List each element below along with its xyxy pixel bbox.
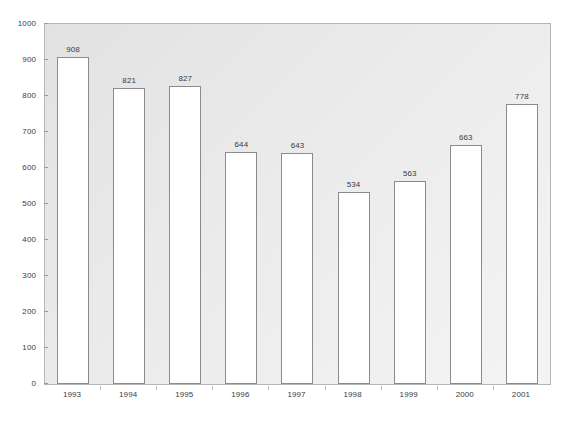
x-tick-mark — [212, 386, 213, 390]
y-tick-label: 500 — [22, 199, 36, 208]
x-tick-label: 2000 — [456, 390, 474, 399]
bar[interactable] — [450, 145, 482, 384]
bar-slot: 644 — [213, 24, 269, 384]
bar-slot: 534 — [326, 24, 382, 384]
x-tick-mark — [268, 386, 269, 390]
x-tick-mark — [493, 386, 494, 390]
bar-value-label: 644 — [235, 140, 249, 149]
x-tick-label: 1996 — [231, 390, 249, 399]
bar-value-label: 827 — [178, 74, 192, 83]
x-tick-mark — [381, 386, 382, 390]
bars-layer: 908821827644643534563663778 — [45, 24, 550, 384]
x-tick-label: 2001 — [512, 390, 530, 399]
bar[interactable] — [225, 152, 257, 384]
y-tick-mark — [44, 203, 48, 204]
bar[interactable] — [113, 88, 145, 384]
bar-value-label: 663 — [459, 133, 473, 142]
x-tick-label: 1997 — [287, 390, 305, 399]
bar-value-label: 534 — [347, 180, 361, 189]
bar-value-label: 778 — [515, 92, 529, 101]
x-tick-label: 1998 — [344, 390, 362, 399]
bar[interactable] — [338, 192, 370, 384]
bar-slot: 821 — [101, 24, 157, 384]
y-tick-label: 1000 — [18, 19, 36, 28]
bar-slot: 827 — [157, 24, 213, 384]
bar[interactable] — [281, 153, 313, 384]
y-tick-mark — [44, 95, 48, 96]
y-tick-label: 400 — [22, 235, 36, 244]
x-tick-label: 1994 — [119, 390, 137, 399]
bar[interactable] — [394, 181, 426, 384]
bar-chart-figure: 01002003004005006007008009001000 9088218… — [0, 0, 579, 427]
x-tick-mark — [325, 386, 326, 390]
bar[interactable] — [169, 86, 201, 384]
y-tick-mark — [44, 239, 48, 240]
bar[interactable] — [506, 104, 538, 384]
bar-slot: 908 — [45, 24, 101, 384]
bar-slot: 643 — [269, 24, 325, 384]
y-tick-label: 0 — [31, 379, 36, 388]
y-tick-mark — [44, 383, 48, 384]
x-tick-mark — [437, 386, 438, 390]
x-axis: 199319941995199619971998199920002001 — [44, 390, 551, 404]
x-tick-mark — [100, 386, 101, 390]
bar-value-label: 563 — [403, 169, 417, 178]
bar-value-label: 821 — [122, 76, 136, 85]
y-tick-label: 100 — [22, 343, 36, 352]
bar-slot: 778 — [494, 24, 550, 384]
plot-area: 908821827644643534563663778 — [44, 23, 551, 385]
y-tick-label: 800 — [22, 91, 36, 100]
bar-value-label: 908 — [66, 45, 80, 54]
y-tick-label: 200 — [22, 307, 36, 316]
y-tick-mark — [44, 131, 48, 132]
bar-slot: 663 — [438, 24, 494, 384]
y-tick-label: 900 — [22, 55, 36, 64]
x-tick-label: 1999 — [400, 390, 418, 399]
y-tick-mark — [44, 275, 48, 276]
y-axis: 01002003004005006007008009001000 — [0, 23, 36, 385]
bar-slot: 563 — [382, 24, 438, 384]
y-tick-label: 600 — [22, 163, 36, 172]
y-tick-label: 700 — [22, 127, 36, 136]
x-tick-mark — [156, 386, 157, 390]
x-tick-label: 1995 — [175, 390, 193, 399]
y-tick-label: 300 — [22, 271, 36, 280]
y-tick-mark — [44, 167, 48, 168]
bar[interactable] — [57, 57, 89, 384]
y-tick-mark — [44, 311, 48, 312]
x-tick-label: 1993 — [63, 390, 81, 399]
y-tick-mark — [44, 347, 48, 348]
y-tick-mark — [44, 59, 48, 60]
bar-value-label: 643 — [291, 141, 305, 150]
y-tick-mark — [44, 23, 48, 24]
